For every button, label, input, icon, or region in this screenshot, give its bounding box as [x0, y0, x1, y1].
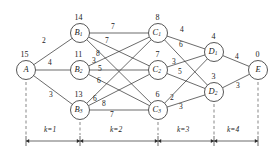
- axis-arrowhead: [77, 139, 80, 143]
- edge-A-B1: [34, 38, 72, 64]
- axis-arrowhead: [158, 139, 161, 143]
- node-value-D1: 4: [212, 32, 216, 41]
- node-label-C1: C1: [153, 27, 161, 37]
- edge-weight-C1-D1: 4: [180, 25, 184, 34]
- axis-arrowhead: [214, 139, 217, 143]
- edge-weight-B2-C1: 3: [92, 56, 96, 65]
- edge-weight-C3-D2: 3: [179, 102, 183, 111]
- network-diagram: 24377835668746352343A15B114B211B313C18C2…: [0, 0, 277, 158]
- stage-label-2: k=2: [110, 125, 122, 134]
- node-value-D2: 3: [212, 72, 216, 81]
- node-label-C3: C3: [153, 104, 161, 114]
- edge-weight-B1-C2: 7: [105, 36, 109, 45]
- axis-arrowhead: [211, 139, 214, 143]
- edge-weight-C2-D1: 3: [172, 57, 176, 66]
- node-value-C3: 6: [156, 90, 160, 99]
- node-value-C2: 7: [156, 50, 160, 59]
- edge-weight-B2-C3: 6: [97, 76, 101, 85]
- edge-weight-C3-D1: 2: [170, 93, 174, 102]
- node-value-C1: 8: [156, 13, 160, 22]
- node-label-E: E: [256, 64, 261, 74]
- edge-weight-A-B2: 4: [48, 58, 52, 67]
- node-value-B2: 11: [75, 50, 83, 59]
- axis-arrowhead: [80, 139, 83, 143]
- edge-weight-C2-D2: 5: [178, 67, 182, 76]
- node-label-D1: D1: [209, 46, 218, 56]
- node-layer: [17, 24, 268, 120]
- stage-label-3: k=3: [177, 125, 189, 134]
- stage-label-4: k=4: [227, 125, 239, 134]
- edge-weight-A-B3: 3: [49, 90, 53, 99]
- node-value-A: 15: [21, 50, 29, 59]
- edge-C1-D2: [165, 40, 208, 85]
- edge-C1-D1: [167, 36, 205, 49]
- node-value-E: 0: [256, 50, 260, 59]
- edge-weight-C1-D2: 6: [179, 40, 183, 49]
- edge-weight-B3-C2: 8: [102, 99, 106, 108]
- diagram-canvas: [0, 0, 277, 158]
- edge-weight-B1-C1: 7: [111, 22, 115, 31]
- stage-label-1: k=1: [44, 125, 56, 134]
- edge-weight-B1-C3: 8: [96, 49, 100, 58]
- edge-weight-A-B1: 2: [42, 36, 46, 45]
- edge-weight-B3-C1: 6: [93, 94, 97, 103]
- node-label-D2: D2: [209, 86, 218, 96]
- edge-A-B3: [34, 76, 73, 105]
- node-label-B3: B3: [75, 104, 83, 114]
- node-label-A: A: [24, 64, 29, 74]
- edge-weight-D1-E: 4: [235, 52, 239, 61]
- edge-weight-B3-C3: 7: [110, 110, 114, 119]
- node-label-B1: B1: [75, 27, 83, 37]
- edge-weight-B2-C2: 5: [98, 64, 102, 73]
- node-label-B2: B2: [75, 64, 83, 74]
- node-value-B1: 14: [75, 13, 83, 22]
- node-label-C2: C2: [153, 64, 161, 74]
- node-value-B3: 13: [75, 90, 83, 99]
- stage-axis: [26, 136, 258, 146]
- axis-arrowhead: [255, 139, 258, 143]
- edge-weight-D2-E: 3: [236, 81, 240, 90]
- axis-arrowhead: [26, 139, 29, 143]
- axis-arrowhead: [155, 139, 158, 143]
